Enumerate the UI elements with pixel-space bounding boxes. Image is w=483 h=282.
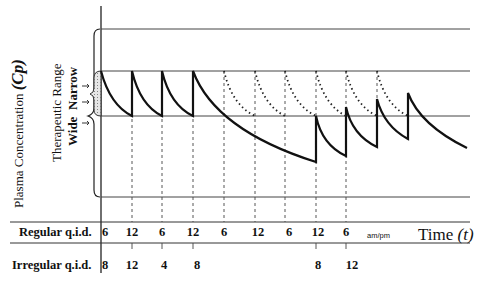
x-axis-label: Time (t) — [418, 225, 474, 245]
regular-tick: 12 — [312, 225, 325, 240]
range-arrows — [82, 84, 89, 125]
ampm-label: am/pm — [367, 231, 390, 240]
axis-ticks — [132, 243, 346, 249]
y-axis-label: Plasma Concentration (Cp) — [8, 59, 28, 208]
irregular-tick: 12 — [346, 258, 359, 273]
narrow-label: Narrow — [65, 67, 81, 110]
regular-tick: 6 — [286, 225, 292, 240]
regular-tick: 6 — [343, 225, 349, 240]
irregular-tick: 8 — [102, 258, 108, 273]
y-axis-label-text: Plasma Concentration — [11, 94, 26, 208]
irregular-tick: 4 — [161, 258, 167, 273]
therapeutic-range-label: Therapeutic Range — [49, 63, 65, 162]
wide-label: Wide — [65, 117, 81, 146]
x-axis-label-text: Time — [418, 225, 453, 244]
regular-tick: 6 — [159, 225, 165, 240]
regular-tick: 12 — [126, 225, 139, 240]
dose-gridlines — [132, 71, 377, 222]
irregular-tick: 8 — [194, 258, 200, 273]
x-axis-symbol: (t) — [458, 225, 474, 244]
irregular-tick: 12 — [126, 258, 139, 273]
regular-row-label: Regular q.i.d. — [19, 225, 92, 240]
y-axis-symbol: (Cp) — [8, 59, 27, 90]
irregular-row-label: Irregular q.i.d. — [12, 258, 91, 273]
regular-tick: 6 — [102, 225, 108, 240]
irregular-tick: 8 — [315, 258, 321, 273]
regular-tick: 12 — [252, 225, 265, 240]
narrow-range-shading — [94, 72, 101, 115]
regular-tick: 6 — [221, 225, 227, 240]
regular-tick: 12 — [187, 225, 200, 240]
